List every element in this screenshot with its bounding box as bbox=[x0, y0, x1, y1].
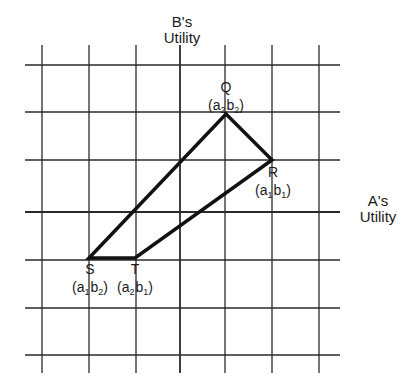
grid-lines bbox=[25, 45, 340, 373]
point-r-coordinates: (a1b1) bbox=[243, 180, 303, 203]
point-t-coordinates: (a2b1) bbox=[105, 277, 165, 300]
vertical-axis-title-line1: B's bbox=[152, 14, 212, 30]
vertical-axis-title-line2: Utility bbox=[152, 30, 212, 46]
coord-b-sub: 1 bbox=[143, 287, 148, 297]
point-q-coordinates: (a2b2) bbox=[196, 95, 256, 118]
point-q-label-group: Q (a2b2) bbox=[196, 80, 256, 118]
coord-b-sub: 2 bbox=[234, 105, 239, 115]
coord-b-sub: 1 bbox=[281, 190, 286, 200]
point-t-label-group: T (a2b1) bbox=[105, 262, 165, 300]
vertical-axis-title: B's Utility bbox=[152, 14, 212, 46]
point-t-letter: T bbox=[105, 262, 165, 277]
coord-b-sub: 2 bbox=[98, 287, 103, 297]
point-q-letter: Q bbox=[196, 80, 256, 95]
point-r-label-group: R (a1b1) bbox=[243, 165, 303, 203]
horizontal-axis-title: A's Utility bbox=[348, 193, 408, 225]
horizontal-axis-title-line1: A's bbox=[348, 193, 408, 209]
horizontal-axis-title-line2: Utility bbox=[348, 209, 408, 225]
point-r-letter: R bbox=[243, 165, 303, 180]
